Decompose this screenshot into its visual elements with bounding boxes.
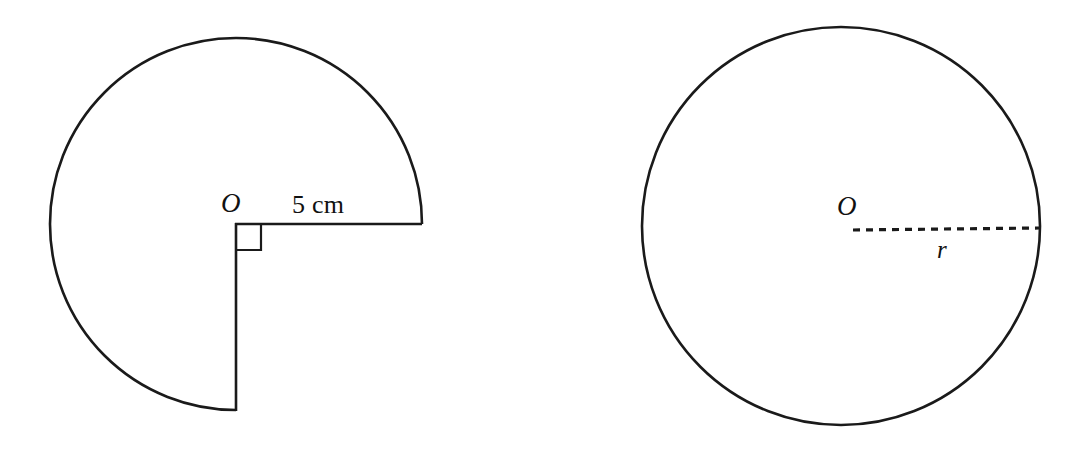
right-angle-marker-icon (236, 225, 261, 250)
right-center-label-O: O (837, 193, 857, 220)
right-figure-group (642, 27, 1040, 425)
dashed-radius-line (853, 228, 1039, 230)
left-center-label-O: O (221, 190, 241, 217)
full-circle-outline (642, 27, 1040, 425)
diagram-canvas: O 5 cm O r (0, 0, 1091, 453)
left-radius-label-5cm: 5 cm (292, 192, 344, 218)
left-figure-group (50, 38, 422, 411)
right-radius-label-r: r (937, 237, 947, 262)
geometry-diagram (0, 0, 1091, 453)
